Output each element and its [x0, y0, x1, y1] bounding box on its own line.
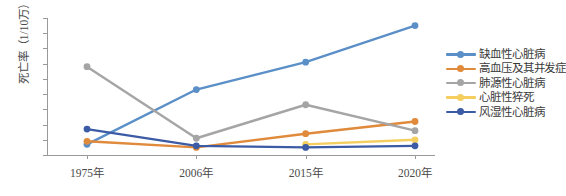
legend-label: 高血压及其并发症	[479, 61, 566, 75]
data-point	[412, 136, 419, 143]
data-point	[302, 130, 309, 137]
legend-marker-icon	[446, 63, 476, 75]
x-tick-label: 2006年	[161, 164, 231, 180]
legend-marker-icon	[446, 91, 476, 103]
x-tick	[306, 155, 307, 159]
data-point	[302, 59, 309, 66]
legend-label: 心脏性猝死	[479, 90, 534, 104]
plot-area: 0102030405060708090 1975年2006年2015年2020年	[47, 18, 435, 155]
data-point	[84, 63, 91, 70]
legend-item-1[interactable]: 高血压及其并发症	[446, 61, 561, 75]
y-tick	[43, 155, 47, 156]
legend-label: 风湿性心脏病	[479, 105, 544, 119]
data-point	[302, 101, 309, 108]
legend-item-3[interactable]: 心脏性猝死	[446, 90, 561, 104]
legend-marker-icon	[446, 48, 476, 60]
series-lines	[47, 18, 435, 155]
data-point	[193, 135, 200, 142]
data-point	[412, 118, 419, 125]
series-line-3	[306, 140, 415, 145]
legend-marker-icon	[446, 77, 476, 89]
x-tick	[415, 155, 416, 159]
data-point	[193, 86, 200, 93]
data-point	[84, 126, 91, 133]
x-tick-label: 2015年	[271, 164, 341, 180]
legend-item-2[interactable]: 肺源性心脏病	[446, 76, 561, 90]
data-point	[412, 22, 419, 29]
data-point	[412, 127, 419, 134]
legend-label: 缺血性心脏病	[479, 47, 544, 61]
data-point	[412, 142, 419, 149]
data-point	[193, 142, 200, 149]
legend-item-0[interactable]: 缺血性心脏病	[446, 47, 561, 61]
legend-item-4[interactable]: 风湿性心脏病	[446, 105, 561, 119]
legend-marker-icon	[446, 106, 476, 118]
data-point	[84, 138, 91, 145]
legend-label: 肺源性心脏病	[479, 76, 544, 90]
y-axis-title: 死亡率（1/10万）	[15, 0, 31, 111]
x-tick-label: 2020年	[380, 164, 450, 180]
x-tick	[196, 155, 197, 159]
x-tick	[87, 155, 88, 159]
x-axis-line	[47, 155, 435, 156]
series-line-1	[87, 122, 415, 148]
data-point	[302, 144, 309, 151]
x-tick-label: 1975年	[52, 164, 122, 180]
chart-legend: 缺血性心脏病高血压及其并发症肺源性心脏病心脏性猝死风湿性心脏病	[446, 47, 561, 119]
